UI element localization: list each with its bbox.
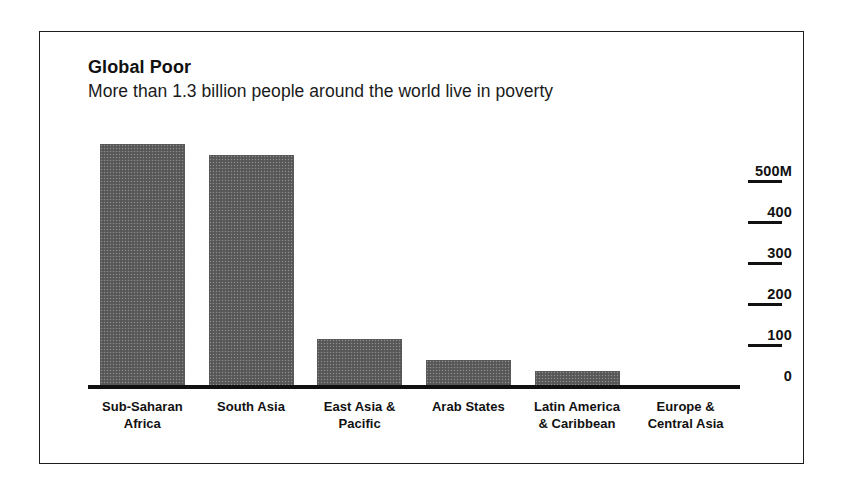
- y-axis-tick-rule: [748, 180, 782, 183]
- y-axis-tick-label: 300: [767, 245, 792, 261]
- chart-figure: Global Poor More than 1.3 billion people…: [0, 0, 842, 490]
- bar: [100, 144, 185, 388]
- y-axis-tick: 0: [744, 366, 796, 388]
- bar: [317, 339, 402, 388]
- y-axis-tick: 400: [744, 202, 796, 224]
- y-axis-tick: 200: [744, 284, 796, 306]
- x-axis-category-label-line: Arab States: [414, 398, 523, 415]
- bar: [209, 155, 294, 388]
- y-axis-tick: 100: [744, 325, 796, 347]
- x-axis-category-label-line: & Caribbean: [523, 415, 632, 432]
- x-axis-category-label-line: Latin America: [523, 398, 632, 415]
- y-axis-tick-label: 500M: [755, 163, 792, 179]
- x-axis-category-label-line: Pacific: [305, 415, 414, 432]
- bar: [426, 360, 511, 388]
- x-axis-category-label-line: South Asia: [197, 398, 306, 415]
- x-axis-category-label-line: Central Asia: [631, 415, 740, 432]
- y-axis: 500M4003002001000: [744, 130, 802, 392]
- x-axis-category-label: South Asia: [197, 398, 306, 415]
- x-axis-category-label-line: Sub-Saharan: [88, 398, 197, 415]
- y-axis-tick-rule: [748, 344, 782, 347]
- x-axis-labels: Sub-SaharanAfricaSouth AsiaEast Asia &Pa…: [88, 398, 740, 446]
- x-axis-category-label: Sub-SaharanAfrica: [88, 398, 197, 432]
- y-axis-tick: 500M: [744, 161, 796, 183]
- x-axis-category-label: Latin America& Caribbean: [523, 398, 632, 432]
- y-axis-tick: 300: [744, 243, 796, 265]
- bars-container: [88, 130, 740, 388]
- y-axis-tick-rule: [748, 262, 782, 265]
- x-axis-category-label-line: Africa: [88, 415, 197, 432]
- chart-title: Global Poor: [88, 57, 191, 78]
- x-axis-category-label-line: Europe &: [631, 398, 740, 415]
- chart-subtitle: More than 1.3 billion people around the …: [88, 81, 553, 102]
- x-axis-category-label: Arab States: [414, 398, 523, 415]
- x-axis-category-label: East Asia &Pacific: [305, 398, 414, 432]
- y-axis-tick-label: 400: [767, 204, 792, 220]
- y-axis-tick-label: 200: [767, 286, 792, 302]
- x-axis-baseline: [88, 385, 740, 389]
- y-axis-tick-rule: [748, 221, 782, 224]
- y-axis-tick-rule: [748, 303, 782, 306]
- x-axis-category-label-line: East Asia &: [305, 398, 414, 415]
- y-axis-tick-label: 100: [767, 327, 792, 343]
- y-axis-tick-label: 0: [784, 368, 792, 384]
- x-axis-category-label: Europe &Central Asia: [631, 398, 740, 432]
